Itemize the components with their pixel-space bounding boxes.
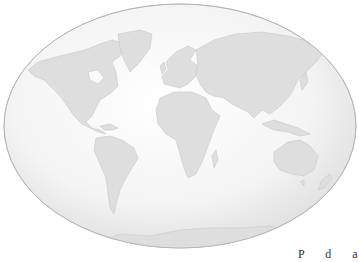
map-caption: P d a [298,247,359,262]
